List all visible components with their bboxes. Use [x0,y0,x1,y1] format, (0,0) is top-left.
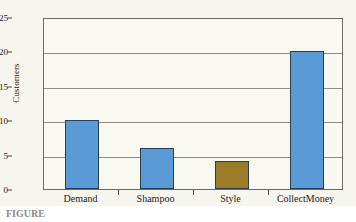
category-label-collectmoney: CollectMoney [277,193,334,204]
category-label-demand: Demand [64,193,98,204]
chart-canvas: Customers 0510152025 DemandShampooStyleC… [0,0,356,206]
category-label-style: Style [220,193,241,204]
y-axis-tick-mark [7,155,12,156]
y-axis-tick-mark [7,190,12,191]
y-axis-tick-mark [7,86,12,87]
y-axis-title: Customers [11,43,21,123]
category-label-shampoo: Shampoo [137,193,175,204]
category-tick-mark [268,190,269,195]
figure-container: Customers 0510152025 DemandShampooStyleC… [0,0,356,222]
figure-caption: FIGURE [6,208,346,222]
category-tick-mark [118,190,119,195]
category-tick-mark [193,190,194,195]
y-axis-tick-mark [7,18,12,19]
bar-shampoo [140,148,174,189]
bar-demand [65,120,99,189]
bar-style [215,161,249,189]
y-axis-tick-mark [7,52,12,53]
bar-collectmoney [290,51,324,189]
plot-area [43,18,343,190]
figure-caption-prefix: FIGURE [6,208,45,219]
y-axis-tick-mark [7,121,12,122]
